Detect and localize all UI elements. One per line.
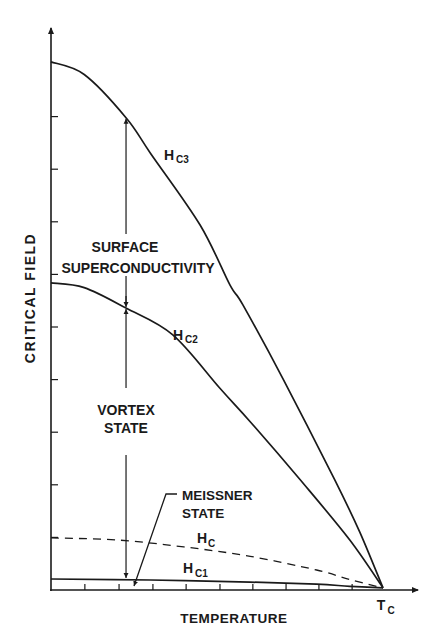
hc2-label: H C2: [173, 327, 198, 345]
hc2-label-sub: C2: [185, 334, 198, 345]
series-hc-line: [51, 538, 383, 588]
tc-label-main: T: [377, 597, 386, 613]
annotation-surface-line1: SURFACE: [92, 239, 159, 255]
hc-label: H C: [197, 530, 215, 549]
series-hc2-line: [51, 283, 383, 588]
annotation-meissner-line2: STATE: [182, 506, 224, 521]
surface-superconductivity-annotation: SURFACE SUPERCONDUCTIVITY: [61, 239, 215, 276]
series-hc1-line: [51, 579, 383, 588]
hc1-label: H C1: [183, 560, 208, 579]
hc-label-sub: C: [208, 538, 215, 549]
hc3-label-main: H: [164, 147, 174, 163]
hc1-label-main: H: [183, 560, 193, 576]
meissner-state-annotation: MEISSNER STATE: [134, 488, 253, 586]
tc-tick-label: T C: [377, 597, 395, 616]
hc1-label-sub: C1: [195, 568, 208, 579]
axes: [50, 28, 418, 591]
hc3-label: H C3: [164, 147, 189, 165]
hc2-label-main: H: [173, 327, 183, 343]
hc3-label-sub: C3: [176, 154, 189, 165]
hc-label-main: H: [197, 530, 207, 546]
vortex-state-annotation: VORTEX STATE: [97, 402, 155, 436]
x-axis-label: TEMPERATURE: [180, 611, 287, 626]
annotation-vortex-line1: VORTEX: [97, 402, 155, 418]
y-axis-label: CRITICAL FIELD: [22, 233, 38, 363]
annotation-surface-line2: SUPERCONDUCTIVITY: [61, 260, 215, 276]
annotation-meissner-line1: MEISSNER: [182, 488, 253, 503]
annotation-vortex-line2: STATE: [104, 420, 148, 436]
critical-field-chart: CRITICAL FIELD TEMPERATURE T C H C3 H C2…: [0, 0, 440, 641]
tc-label-sub: C: [387, 605, 394, 616]
meissner-leader-line: [134, 494, 177, 586]
